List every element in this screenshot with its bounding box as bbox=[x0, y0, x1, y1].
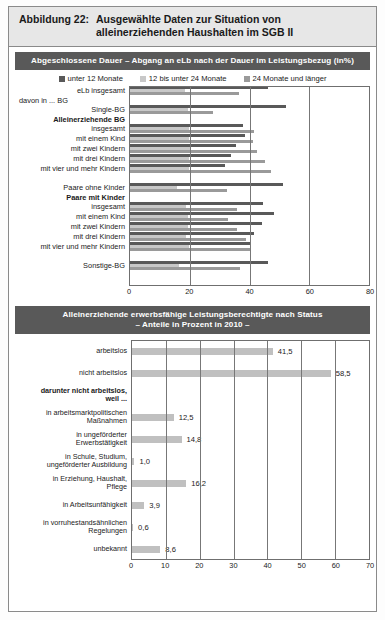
chart1-row-bars bbox=[129, 242, 370, 252]
chart2-bar bbox=[131, 502, 144, 509]
chart1-row: mit vier und mehr Kindern bbox=[15, 242, 370, 252]
chart2-tick-label: 10 bbox=[161, 561, 169, 570]
chart1-row-label: insgesamt bbox=[15, 125, 129, 133]
legend-label: 24 Monate und länger bbox=[253, 74, 327, 83]
chart1-row: mit vier und mehr Kindern bbox=[15, 164, 370, 174]
chart2-row-bar-container: 14,8 bbox=[131, 432, 370, 446]
chart2-row: darunter nicht arbeitslos, weil ... bbox=[15, 384, 370, 406]
chart2-tick-label: 0 bbox=[129, 561, 133, 570]
chart1-bar bbox=[129, 267, 240, 270]
chart2-value-label: 16,2 bbox=[191, 479, 206, 488]
chart2-tick-label: 50 bbox=[298, 561, 306, 570]
chart1-row-label: Paare mit Kinder bbox=[15, 194, 129, 202]
chart2-row: in ungeförderter Erwerbstätigkeit14,8 bbox=[15, 428, 370, 450]
chart2-bar bbox=[131, 414, 174, 421]
chart1-row-label: Single-BG bbox=[15, 106, 129, 114]
chart2-row-bar-container: 41,5 bbox=[131, 344, 370, 358]
chart2-bar bbox=[131, 436, 182, 443]
chart1-tick-label: 60 bbox=[306, 287, 314, 296]
chart2-value-label: 0,6 bbox=[138, 523, 149, 532]
chart1-tick-label: 40 bbox=[245, 287, 253, 296]
chart1-row: Paare mit Kinder bbox=[15, 193, 370, 202]
chart1-row: mit einem Kind bbox=[15, 212, 370, 222]
chart1-row: eLb insgesamt bbox=[15, 86, 370, 96]
chart2-value-label: 3,9 bbox=[149, 501, 160, 510]
chart1-bar bbox=[129, 111, 213, 114]
chart1-row: mit drei Kindern bbox=[15, 232, 370, 242]
chart1-bar bbox=[129, 140, 253, 143]
chart1-bar bbox=[129, 208, 237, 211]
figure-title-bar: Abbildung 22: Ausgewählte Daten zur Situ… bbox=[9, 7, 376, 47]
chart1-row-label: mit einem Kind bbox=[15, 135, 129, 143]
chart1-row-label: Alleinerziehende BG bbox=[15, 116, 129, 124]
chart1-row-bars bbox=[129, 252, 370, 261]
chart1-row-label: Paare ohne Kinder bbox=[15, 184, 129, 192]
chart1-row-bars bbox=[129, 261, 370, 271]
legend-item-2: 24 Monate und länger bbox=[244, 74, 327, 83]
chart1-bar bbox=[129, 130, 254, 133]
chart1-row bbox=[15, 252, 370, 261]
legend-label: unter 12 Monate bbox=[68, 74, 123, 83]
chart2-row-bar-container: 8,6 bbox=[131, 542, 370, 556]
chart1-row-bars bbox=[129, 232, 370, 242]
chart1-bar bbox=[129, 189, 227, 192]
panel2-heading: Alleinerziehende erwerbsfähige Leistungs… bbox=[15, 306, 370, 334]
legend-label: 12 bis unter 24 Monate bbox=[149, 74, 227, 83]
chart2-row-bar-container: 12,5 bbox=[131, 410, 370, 424]
chart1-row: insgesamt bbox=[15, 124, 370, 134]
chart1-row: insgesamt bbox=[15, 202, 370, 212]
chart1-row-bars bbox=[129, 164, 370, 174]
chart1-bar bbox=[129, 92, 239, 95]
chart2-value-label: 12,5 bbox=[179, 413, 194, 422]
chart1-row-label: davon in ... BG bbox=[15, 97, 129, 105]
chart1-rows: eLb insgesamtdavon in ... BGSingle-BGAll… bbox=[15, 86, 370, 271]
chart1-row: mit zwei Kindern bbox=[15, 222, 370, 232]
panel-duration: Abgeschlossene Dauer – Abgang an eLb nac… bbox=[9, 47, 376, 301]
chart2-row-label: arbeitslos bbox=[15, 347, 131, 355]
figure-container: Abbildung 22: Ausgewählte Daten zur Situ… bbox=[0, 0, 385, 620]
figure-title-line2: alleinerziehenden Haushalten im SGB II bbox=[96, 26, 293, 39]
chart2-bar bbox=[131, 370, 331, 377]
chart1-row-label: Sonstige-BG bbox=[15, 262, 129, 270]
chart1-row: Sonstige-BG bbox=[15, 261, 370, 271]
chart1-row-bars bbox=[129, 86, 370, 96]
chart1-bar bbox=[129, 170, 271, 173]
chart2-row: arbeitslos41,5 bbox=[15, 340, 370, 362]
chart2-row: in vorruhestandsähnlichen Regelungen0,6 bbox=[15, 516, 370, 538]
chart2-value-label: 1,0 bbox=[139, 457, 150, 466]
chart2-tick-label: 60 bbox=[332, 561, 340, 570]
chart2-row-label: unbekannt bbox=[15, 545, 131, 553]
chart1-row-label: insgesamt bbox=[15, 203, 129, 211]
legend-swatch-icon bbox=[140, 76, 146, 82]
chart1-bar bbox=[129, 228, 237, 231]
chart1-row-label: eLb insgesamt bbox=[15, 87, 129, 95]
chart1-bar bbox=[129, 150, 257, 153]
chart2-value-label: 14,8 bbox=[187, 435, 202, 444]
chart2-row-label: in Arbeitsunfähigkeit bbox=[15, 501, 131, 509]
chart1-row-bars bbox=[129, 212, 370, 222]
chart1-tick-label: 0 bbox=[127, 287, 131, 296]
chart2-row-bar-container: 58,5 bbox=[131, 366, 370, 380]
chart2-bar bbox=[131, 524, 133, 531]
chart2-row-bar-container bbox=[131, 388, 370, 402]
figure-title-line1: Ausgewählte Daten zur Situation von bbox=[96, 13, 293, 26]
panel1-heading: Abgeschlossene Dauer – Abgang an eLb nac… bbox=[15, 52, 370, 70]
chart1-row-label: mit drei Kindern bbox=[15, 155, 129, 163]
chart2-bar bbox=[131, 546, 160, 553]
chart2-row: in Arbeitsunfähigkeit3,9 bbox=[15, 494, 370, 516]
chart1-row: Single-BG bbox=[15, 105, 370, 115]
panel2-heading-line2: – Anteile in Prozent in 2010 – bbox=[19, 320, 366, 330]
chart2-row-bar-container: 0,6 bbox=[131, 520, 370, 534]
chart2-bar bbox=[131, 458, 134, 465]
chart1-bar bbox=[129, 218, 228, 221]
chart2-tick-label: 20 bbox=[195, 561, 203, 570]
chart2-value-label: 8,6 bbox=[165, 545, 176, 554]
chart1-row-label: mit zwei Kindern bbox=[15, 223, 129, 231]
chart2: arbeitslos41,5nicht arbeitslos58,5darunt… bbox=[15, 340, 370, 560]
chart1-row-bars bbox=[129, 183, 370, 193]
chart1-legend: unter 12 Monate12 bis unter 24 Monate24 … bbox=[15, 70, 370, 86]
chart2-row-label: in vorruhestandsähnlichen Regelungen bbox=[15, 519, 131, 536]
legend-swatch-icon bbox=[59, 76, 65, 82]
chart1-row-bars bbox=[129, 222, 370, 232]
chart2-bar bbox=[131, 480, 186, 487]
